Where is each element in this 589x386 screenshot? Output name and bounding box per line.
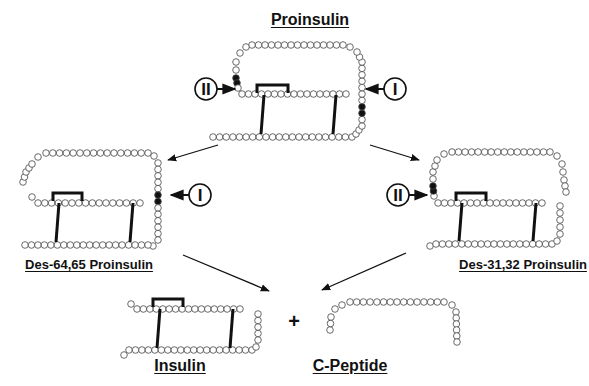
a-chain bbox=[29, 194, 144, 207]
cleavage-site-marker-proinsulin-site-I: I bbox=[366, 78, 406, 100]
arrow-des64-to-products bbox=[183, 255, 269, 291]
c-peptide-top bbox=[20, 150, 152, 186]
b-chain bbox=[210, 134, 356, 141]
marker-label: II bbox=[393, 186, 402, 205]
interchain-disulfide bbox=[157, 309, 160, 348]
cleavage-site-marker-des64-site-I: I bbox=[171, 184, 211, 206]
arrow-to-des64 bbox=[168, 145, 218, 160]
label-c-peptide: C-Peptide bbox=[313, 357, 388, 375]
interchain-disulfide bbox=[261, 95, 264, 134]
arrow-des31-to-products bbox=[322, 253, 406, 290]
marker-label: I bbox=[393, 80, 398, 99]
cleavage-site-marker-proinsulin-site-II: II bbox=[195, 78, 235, 100]
label-des-31-32-proinsulin: Des-31,32 Proinsulin bbox=[459, 257, 587, 272]
c-peptide-right-arm bbox=[347, 44, 366, 138]
b-chain bbox=[427, 241, 556, 250]
b-chain-tail bbox=[253, 311, 262, 351]
c-peptide-free bbox=[327, 299, 461, 346]
marker-label: II bbox=[201, 80, 210, 99]
reaction-arrows bbox=[168, 145, 419, 291]
interchain-disulfide bbox=[230, 309, 233, 348]
a-chain bbox=[435, 200, 546, 207]
marker-label: I bbox=[198, 186, 203, 205]
a-chain bbox=[239, 91, 350, 98]
c-peptide-left-arm bbox=[233, 44, 250, 92]
interchain-disulfide bbox=[459, 203, 462, 241]
c-peptide bbox=[430, 149, 570, 200]
interchain-disulfide bbox=[533, 203, 536, 241]
arrow-to-des31 bbox=[370, 145, 419, 160]
plus-sign: + bbox=[288, 310, 300, 333]
a-chain bbox=[128, 301, 244, 313]
label-insulin: Insulin bbox=[154, 357, 206, 375]
b-chain-tail bbox=[554, 203, 564, 245]
label-proinsulin: Proinsulin bbox=[271, 11, 349, 29]
interchain-disulfide bbox=[130, 203, 133, 242]
cleavage-site-marker-des31-site-II: II bbox=[387, 184, 427, 206]
c-peptide-top bbox=[249, 42, 347, 49]
b-chain bbox=[22, 242, 152, 249]
label-des-64-65-proinsulin: Des-64,65 Proinsulin bbox=[25, 257, 153, 272]
interchain-disulfide bbox=[56, 203, 59, 242]
c-peptide-right-arm bbox=[150, 153, 162, 250]
interchain-disulfide bbox=[333, 95, 336, 134]
